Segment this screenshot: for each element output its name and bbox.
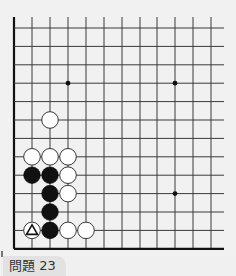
- white-stone: [60, 185, 77, 202]
- star-point-icon: [173, 81, 178, 86]
- white-stone-icon: [78, 222, 95, 239]
- black-stone-icon: [42, 167, 59, 184]
- white-stone: [60, 149, 77, 166]
- white-stone: [42, 149, 59, 166]
- black-stone: [42, 185, 59, 202]
- white-stone-icon: [60, 167, 77, 184]
- problem-caption-tab: 問題 23: [3, 256, 66, 276]
- star-point-icon: [66, 81, 71, 86]
- white-stone: [42, 112, 59, 129]
- black-stone-icon: [42, 204, 59, 221]
- black-stone: [24, 167, 41, 184]
- white-stone-icon: [24, 149, 41, 166]
- go-board-diagram: [0, 0, 236, 255]
- white-stone-icon: [60, 185, 77, 202]
- black-stone: [42, 222, 59, 239]
- go-board: [0, 0, 236, 255]
- white-stone: [24, 149, 41, 166]
- white-stone-icon: [42, 149, 59, 166]
- white-stone-icon: [60, 222, 77, 239]
- black-stone: [42, 204, 59, 221]
- black-stone-icon: [24, 167, 41, 184]
- black-stone-icon: [42, 185, 59, 202]
- white-stone: [78, 222, 95, 239]
- white-stone: [60, 167, 77, 184]
- white-stone: [24, 222, 41, 239]
- star-point-icon: [173, 191, 178, 196]
- white-stone: [60, 222, 77, 239]
- black-stone: [42, 167, 59, 184]
- black-stone-icon: [42, 222, 59, 239]
- white-stone-icon: [60, 149, 77, 166]
- white-stone-icon: [42, 112, 59, 129]
- problem-caption-label: 問題 23: [9, 258, 56, 273]
